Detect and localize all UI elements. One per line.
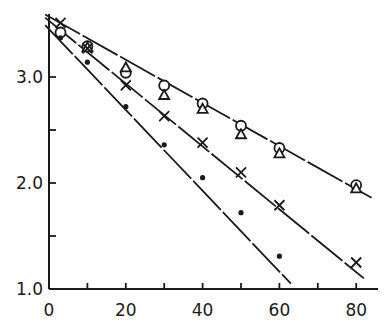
dot-marker xyxy=(162,142,167,147)
dot-marker xyxy=(200,175,205,180)
fit-line xyxy=(45,14,371,197)
line-chart: 0204060801.02.03.0 xyxy=(0,0,384,327)
fit-lines xyxy=(45,14,371,283)
triangle-marker xyxy=(121,62,131,71)
axes: 0204060801.02.03.0 xyxy=(16,14,378,320)
y-tick-label: 3.0 xyxy=(16,67,43,87)
cross-marker xyxy=(236,167,246,177)
cross-marker xyxy=(159,111,169,121)
dot-marker xyxy=(58,35,63,40)
x-tick-label: 0 xyxy=(44,300,55,320)
y-tick-label: 1.0 xyxy=(16,279,43,299)
cross-marker xyxy=(56,18,66,28)
dot-marker xyxy=(85,60,90,65)
dot-marker xyxy=(238,210,243,215)
triangle-marker xyxy=(236,129,246,138)
x-tick-label: 40 xyxy=(192,300,214,320)
dot-marker xyxy=(123,104,128,109)
x-tick-label: 80 xyxy=(345,300,367,320)
data-points xyxy=(56,18,362,268)
fit-line xyxy=(45,25,291,284)
cross-marker xyxy=(351,258,361,268)
dot-marker xyxy=(277,254,282,259)
fit-line xyxy=(45,18,364,279)
triangle-marker xyxy=(159,90,169,99)
x-tick-label: 20 xyxy=(115,300,137,320)
x-tick-label: 60 xyxy=(269,300,291,320)
y-tick-label: 2.0 xyxy=(16,173,43,193)
